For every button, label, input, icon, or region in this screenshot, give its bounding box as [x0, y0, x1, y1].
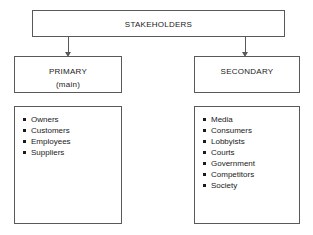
list-item-label: Employees [31, 137, 71, 146]
bullet-icon [203, 140, 206, 143]
secondary-stakeholders-list: MediaConsumersLobbyistsCourtsGovernmentC… [195, 107, 299, 191]
primary-branch-sublabel: (main) [15, 80, 121, 89]
stakeholders-root-label: STAKEHOLDERS [33, 20, 284, 29]
list-item: Lobbyists [211, 136, 299, 147]
bullet-icon [23, 151, 26, 154]
bullet-icon [203, 184, 206, 187]
list-item-label: Customers [31, 126, 70, 135]
primary-stakeholders-list: OwnersCustomersEmployeesSuppliers [15, 107, 121, 158]
list-item: Suppliers [31, 147, 121, 158]
list-item-label: Government [211, 159, 255, 168]
list-item-label: Consumers [211, 126, 252, 135]
primary-branch-label: PRIMARY [15, 67, 121, 76]
bullet-icon [23, 118, 26, 121]
list-item: Media [211, 114, 299, 125]
secondary-branch-label: SECONDARY [195, 67, 299, 76]
bullet-icon [23, 140, 26, 143]
list-item: Government [211, 158, 299, 169]
list-item: Employees [31, 136, 121, 147]
list-item-label: Owners [31, 115, 59, 124]
connector-line [68, 37, 69, 53]
list-item: Owners [31, 114, 121, 125]
list-item: Courts [211, 147, 299, 158]
list-item: Consumers [211, 125, 299, 136]
bullet-icon [203, 118, 206, 121]
bullet-icon [203, 151, 206, 154]
secondary-branch-box: SECONDARY [194, 56, 300, 93]
primary-branch-box: PRIMARY (main) [14, 56, 122, 93]
stakeholders-diagram: STAKEHOLDERS PRIMARY (main) SECONDARY Ow… [0, 0, 313, 235]
bullet-icon [203, 129, 206, 132]
secondary-stakeholders-list-box: MediaConsumersLobbyistsCourtsGovernmentC… [194, 106, 300, 224]
list-item-label: Society [211, 181, 237, 190]
list-item-label: Courts [211, 148, 235, 157]
bullet-icon [203, 173, 206, 176]
list-item: Competitors [211, 169, 299, 180]
bullet-icon [203, 162, 206, 165]
list-item-label: Competitors [211, 170, 254, 179]
list-item: Customers [31, 125, 121, 136]
connector-line [245, 37, 246, 53]
bullet-icon [23, 129, 26, 132]
list-item-label: Suppliers [31, 148, 64, 157]
stakeholders-root-box: STAKEHOLDERS [32, 10, 285, 37]
list-item: Society [211, 180, 299, 191]
list-item-label: Media [211, 115, 233, 124]
list-item-label: Lobbyists [211, 137, 245, 146]
primary-stakeholders-list-box: OwnersCustomersEmployeesSuppliers [14, 106, 122, 224]
